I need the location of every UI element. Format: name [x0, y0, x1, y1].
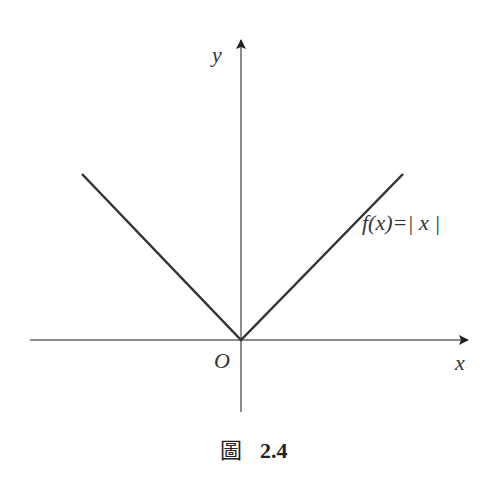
abs-function-curve — [82, 174, 403, 340]
caption-prefix: 圖 — [220, 438, 242, 463]
caption-number: 2.4 — [260, 438, 288, 463]
origin-label: O — [214, 348, 230, 373]
y-axis-label: y — [210, 42, 222, 67]
graph-absolute-value: y x O f(x)=| x | 圖 2.4 — [0, 0, 491, 494]
function-label: f(x)=| x | — [362, 210, 440, 235]
x-axis-label: x — [454, 350, 465, 375]
